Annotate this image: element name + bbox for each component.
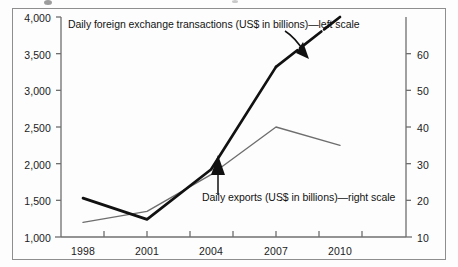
y-right-tick-30: 30 [417, 159, 429, 171]
y-left-tick-2500: 2,500 [9, 122, 51, 134]
y-right-tick-10: 10 [417, 232, 429, 244]
y-left-tick-4000: 4,000 [9, 12, 51, 24]
y-right-tick-60: 60 [417, 49, 429, 61]
left-axis-ticks [55, 17, 61, 237]
scan-artifact-glyph [44, 0, 52, 5]
x-tick-2004: 2004 [197, 245, 225, 257]
y-left-tick-1000: 1,000 [9, 232, 51, 244]
x-tick-2007: 2007 [262, 245, 290, 257]
right-axis-ticks [406, 54, 412, 237]
chart-frame: 4,000 3,500 3,000 2,500 2,000 1,500 1,00… [12, 8, 446, 260]
y-left-tick-3500: 3,500 [9, 49, 51, 61]
chart-page: 4,000 3,500 3,000 2,500 2,000 1,500 1,00… [0, 0, 458, 267]
chart-plot-area [13, 9, 445, 259]
y-left-tick-3000: 3,000 [9, 85, 51, 97]
x-tick-1998: 1998 [69, 245, 97, 257]
x-tick-2001: 2001 [133, 245, 161, 257]
y-right-tick-40: 40 [417, 122, 429, 134]
y-left-tick-1500: 1,500 [9, 195, 51, 207]
exports-annotation-label: Daily exports (US$ in billions)—right sc… [202, 191, 395, 203]
scan-artifact-speck [232, 0, 238, 3]
x-axis-ticks [104, 231, 362, 237]
y-right-tick-20: 20 [417, 195, 429, 207]
x-tick-2010: 2010 [326, 245, 354, 257]
y-right-tick-50: 50 [417, 85, 429, 97]
exports-annotation-arrow [211, 155, 225, 195]
y-left-tick-2000: 2,000 [9, 159, 51, 171]
fx-transactions-annotation-label: Daily foreign exchange transactions (US$… [68, 18, 360, 30]
